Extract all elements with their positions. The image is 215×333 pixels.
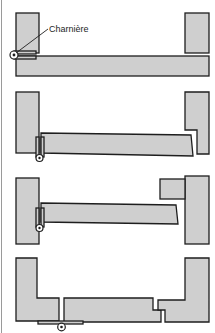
right-post [185, 13, 209, 53]
door-panel [41, 133, 193, 156]
panel-3 [16, 176, 209, 244]
hinge-icon [58, 323, 66, 331]
panel-1: Charnière [10, 13, 209, 76]
left-frame [16, 258, 59, 321]
door-panel [16, 56, 209, 76]
hinge-icon [36, 225, 43, 232]
door-panel [64, 298, 161, 322]
door-panel [41, 203, 178, 224]
hinge-label: Charnière [49, 24, 89, 34]
hinge-leaf-left [36, 137, 39, 157]
panel-4 [16, 258, 209, 331]
right-frame [158, 258, 209, 322]
hinge-icon [36, 155, 43, 162]
panel-2 [16, 92, 209, 162]
stop-block [160, 179, 185, 199]
right-post [185, 176, 209, 244]
hinge-leaf-right [41, 208, 44, 227]
hinge-diagram: Charnière [0, 0, 215, 333]
left-post [16, 13, 39, 53]
hinge-leaf-right [41, 137, 44, 157]
